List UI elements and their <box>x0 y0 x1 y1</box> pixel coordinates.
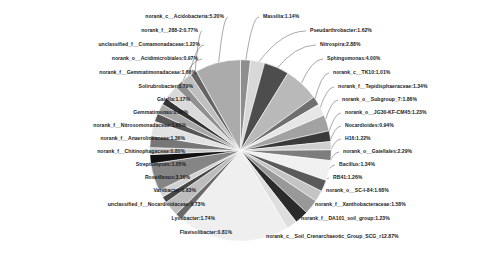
pie-chart-figure: norank_c__Acidobacteria:5.20%norank_f__2… <box>0 0 481 257</box>
pie-slice-label: unclassified_f__Comamonadaceae:1.22% <box>98 42 200 47</box>
leader-line <box>245 17 259 63</box>
pie-slice-label: norank_c__TK10:1.01% <box>333 70 390 75</box>
pie-slice-label: Gaiella:1.17% <box>157 97 190 102</box>
pie-slice-label: norank_o__JG30-KF-CM45:1.23% <box>345 110 427 115</box>
pie-slice-label: Solirubrobacter:0.79% <box>139 84 194 89</box>
pie-slice-label: norank_c__Soil_Crenarchaeotic_Group_SCG_… <box>266 234 399 239</box>
pie-slice-label: RB41:1.26% <box>333 175 362 180</box>
pie-slice-label: Flavisolibacter:0.81% <box>180 230 232 235</box>
pie-slice-label: norank_f__Nitrosomonadaceae:1.65% <box>93 123 186 128</box>
pie-slice-label: norank_f__Anaerolineaceae:1.36% <box>101 136 185 141</box>
pie-slice-label: Roseiflexus:3.16% <box>145 175 190 180</box>
pie-slice-label: Nitrospira:2.88% <box>320 42 361 47</box>
pie-slice-label: norank_o__Gaiellales:2.29% <box>343 149 412 154</box>
pie-slice-label: norank_o__Subgroup_7:1.86% <box>342 97 417 102</box>
pie-slice-label: norank_f__DA101_soil_group:1.23% <box>301 216 390 221</box>
pie-slice-label: Streptomyces:1.05% <box>136 162 186 167</box>
pie-slice-label: norank_f__288-2:0.77% <box>141 28 198 33</box>
pie-slice-label: Massilia:1.14% <box>263 14 299 19</box>
pie-slice-label: norank_c__Acidobacteria:5.20% <box>145 14 224 19</box>
pie-slice-label: H16:1.22% <box>345 136 371 141</box>
pie-slice-label: norank_f__Xanthobacteraceae:1.58% <box>315 202 406 207</box>
pie-slice-label: Sphingomonas:4.00% <box>327 56 380 61</box>
pie-slice-label: Pseudarthrobacter:1.62% <box>310 28 372 33</box>
pie-slice-label: unclassified_f__Nocardioidaceae:0.73% <box>108 202 205 207</box>
pie-slice-label: norank_o__Acidimicrobiales:0.97% <box>112 56 198 61</box>
pie-slice-label: Nocardioides:0.94% <box>345 123 394 128</box>
pie-slice-label: Variibacter:0.83% <box>153 188 196 193</box>
pie-slice-label: Bacillus:1.34% <box>339 162 375 167</box>
pie-slice-label: norank_f__Gemmatimonadaceae:1.66% <box>99 70 196 75</box>
pie-slice-label: norank_o__SC-I-84:1.68% <box>326 188 389 193</box>
pie-slice-label: Lysobacter:1.74% <box>172 216 215 221</box>
pie-slice-label: Gemmatimonas:0.96% <box>133 110 188 115</box>
pie-slice-label: norank_f__Tepidisphaeraceae:1.34% <box>338 84 427 89</box>
pie-slice-label: norank_f__Chitinophagaceae:0.80% <box>97 149 185 154</box>
